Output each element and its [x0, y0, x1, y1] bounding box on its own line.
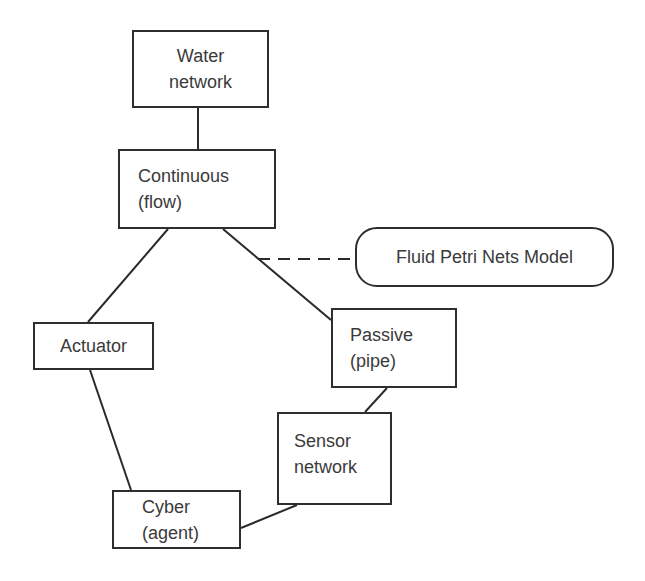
- edge-continuous-to-passive: [223, 229, 331, 320]
- edge-sensor-to-cyber: [241, 505, 297, 528]
- node-actuator-line1: Actuator: [60, 333, 127, 359]
- node-fluid-petri-nets-model: Fluid Petri Nets Model: [355, 227, 614, 287]
- node-cyber-line1: Cyber: [142, 494, 190, 520]
- edge-actuator-to-cyber: [90, 370, 131, 490]
- node-actuator: Actuator: [33, 322, 154, 370]
- node-sensor-network-line2: network: [294, 454, 357, 480]
- node-water-network: Water network: [132, 30, 269, 108]
- node-continuous: Continuous (flow): [118, 149, 276, 229]
- node-cyber-agent: Cyber (agent): [112, 490, 241, 549]
- node-water-network-line1: Water: [177, 43, 224, 69]
- node-water-network-line2: network: [169, 69, 232, 95]
- edge-continuous-to-actuator: [88, 229, 168, 322]
- node-passive-line2: (pipe): [350, 348, 396, 374]
- node-fluid-petri-nets-line1: Fluid Petri Nets Model: [396, 244, 573, 270]
- node-sensor-network-line1: Sensor: [294, 428, 351, 454]
- node-continuous-line2: (flow): [138, 189, 182, 215]
- node-passive-line1: Passive: [350, 322, 413, 348]
- node-continuous-line1: Continuous: [138, 163, 229, 189]
- node-cyber-line2: (agent): [142, 520, 199, 546]
- edge-passive-to-sensor: [365, 388, 387, 412]
- node-passive: Passive (pipe): [331, 308, 457, 388]
- node-sensor-network: Sensor network: [277, 412, 392, 505]
